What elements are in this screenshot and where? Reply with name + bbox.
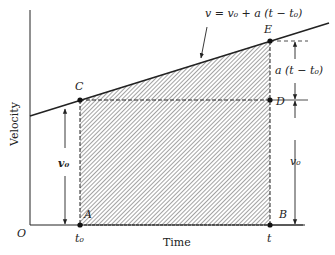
equation-pointer xyxy=(201,27,207,58)
label-d: D xyxy=(275,95,285,108)
label-v0-left: v₀ xyxy=(58,157,69,170)
label-increase: a (t − t₀) xyxy=(275,64,323,77)
tick-t: t xyxy=(267,232,272,245)
point-c xyxy=(77,97,82,102)
label-v0-right: v₀ xyxy=(290,155,301,168)
point-d xyxy=(267,97,272,102)
velocity-time-diagram: v = v₀ + a (t − t₀) C E D A B O t₀ t a (… xyxy=(0,0,335,255)
label-e: E xyxy=(263,23,272,36)
point-e xyxy=(267,38,272,43)
tick-t0: t₀ xyxy=(75,232,84,245)
label-origin: O xyxy=(17,227,26,240)
label-c: C xyxy=(75,80,84,93)
label-a: A xyxy=(83,208,92,221)
x-axis-title: Time xyxy=(163,236,191,249)
point-b xyxy=(267,222,272,227)
label-equation: v = v₀ + a (t − t₀) xyxy=(205,7,302,20)
label-b: B xyxy=(278,208,287,221)
hatched-area xyxy=(80,41,270,225)
y-axis-title: Velocity xyxy=(8,101,21,147)
point-a xyxy=(77,222,82,227)
